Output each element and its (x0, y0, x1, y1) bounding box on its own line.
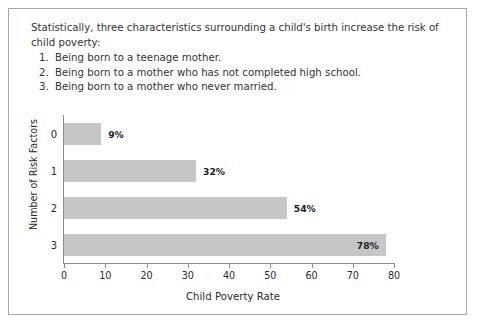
bar-value-label: 32% (203, 165, 225, 176)
x-axis-title: Child Poverty Rate (63, 291, 403, 302)
list-item-text: Being born to a mother who has not compl… (55, 67, 361, 78)
bar: 54% (64, 197, 287, 219)
figure-frame: Statistically, three characteristics sur… (8, 8, 467, 315)
x-tick (270, 263, 271, 268)
bar-chart: Number of Risk Factors Child Poverty Rat… (9, 105, 468, 315)
y-tick-label: 3 (51, 239, 57, 250)
bar-row: 54%2 (64, 197, 394, 219)
caption-block: Statistically, three characteristics sur… (31, 21, 443, 95)
x-tick (147, 263, 148, 268)
list-item-number: 3. (39, 80, 49, 95)
bar-row: 9%0 (64, 123, 394, 145)
x-tick-label: 10 (99, 270, 111, 281)
x-tick-label: 40 (223, 270, 235, 281)
bar-row: 78%3 (64, 234, 394, 256)
list-item: 1. Being born to a teenage mother. (31, 51, 443, 66)
x-tick-label: 20 (140, 270, 152, 281)
x-tick (229, 263, 230, 268)
bar: 32% (64, 160, 196, 182)
caption-lead: Statistically, three characteristics sur… (31, 21, 443, 50)
list-item-text: Being born to a teenage mother. (55, 52, 221, 63)
x-tick (105, 263, 106, 268)
y-tick-label: 0 (51, 128, 57, 139)
x-tick-label: 50 (264, 270, 276, 281)
bar-value-label: 9% (108, 128, 124, 139)
x-tick-label: 70 (347, 270, 359, 281)
x-tick (353, 263, 354, 268)
x-tick-label: 60 (305, 270, 317, 281)
y-axis-title: Number of Risk Factors (28, 105, 39, 245)
x-tick-label: 80 (388, 270, 400, 281)
x-tick-label: 0 (61, 270, 67, 281)
list-item: 3. Being born to a mother who never marr… (31, 80, 443, 95)
x-tick (312, 263, 313, 268)
bar: 78% (64, 234, 386, 256)
list-item: 2. Being born to a mother who has not co… (31, 66, 443, 81)
risk-factor-list: 1. Being born to a teenage mother. 2. Be… (31, 51, 443, 95)
y-tick-label: 1 (51, 165, 57, 176)
bar-value-label: 54% (294, 202, 316, 213)
list-item-number: 2. (39, 66, 49, 81)
y-tick-label: 2 (51, 202, 57, 213)
plot-area: 9%032%154%278%301020304050607080 (63, 115, 394, 264)
bar-row: 32%1 (64, 160, 394, 182)
list-item-text: Being born to a mother who never married… (55, 81, 277, 92)
list-item-number: 1. (39, 51, 49, 66)
x-tick (64, 263, 65, 268)
x-tick (394, 263, 395, 268)
x-tick-label: 30 (182, 270, 194, 281)
bar-value-label: 78% (357, 239, 379, 250)
bar: 9% (64, 123, 101, 145)
x-tick (188, 263, 189, 268)
